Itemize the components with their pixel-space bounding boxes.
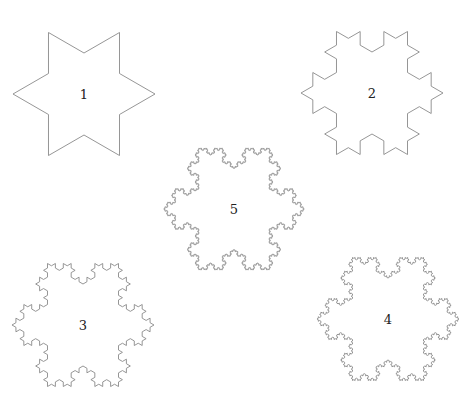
snowflake-5-label: 5: [230, 202, 238, 217]
snowflake-2: 2: [301, 32, 443, 155]
snowflake-4: 4: [317, 258, 459, 381]
snowflake-3-label: 3: [79, 318, 87, 333]
snowflake-4-label: 4: [384, 312, 392, 327]
snowflake-2-label: 2: [368, 86, 376, 101]
snowflake-3: 3: [12, 264, 154, 387]
koch-snowflake-figure: 1 2 5 3 4: [0, 0, 471, 413]
snowflake-1: 1: [13, 33, 155, 156]
snowflake-5: 5: [164, 148, 304, 270]
snowflake-1-label: 1: [80, 87, 88, 102]
